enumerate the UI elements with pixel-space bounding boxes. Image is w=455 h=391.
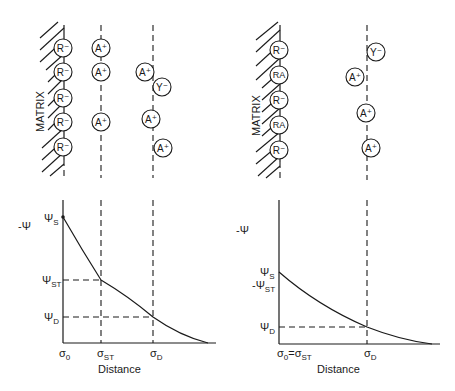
potential-curve (279, 272, 432, 344)
panel-top-left: MATRIX R⁻ R⁻ R⁻ R⁻ R⁻ A⁺ A⁺ A⁺ A⁺ Y⁻ A⁺ … (34, 22, 172, 178)
diffuse-ion: Y⁻ (153, 78, 171, 96)
x-axis-label: Distance (317, 363, 360, 375)
y-axis-label: -Ψ (18, 220, 31, 232)
matrix-label: MATRIX (34, 91, 46, 132)
chart-bottom-right: -Ψ ΨS -ΨST ΨD σ0=σST σD Distance (236, 200, 440, 375)
svg-text:RA: RA (273, 120, 286, 130)
diffuse-ion: A⁺ (362, 139, 380, 157)
diffuse-ion: A⁺ (357, 104, 375, 122)
svg-text:ΨST: ΨST (42, 274, 62, 289)
chart-bottom-left: -Ψ ΨS ΨST ΨD σ0 σST σD Distance (18, 200, 216, 375)
svg-text:σD: σD (364, 347, 377, 362)
svg-text:Y⁻: Y⁻ (370, 47, 382, 58)
surface-ion: R⁻ (270, 141, 288, 159)
diffuse-ion: A⁺ (154, 139, 172, 157)
surface-ion: RA (270, 116, 288, 134)
svg-text:R⁻: R⁻ (57, 117, 70, 128)
svg-text:σ0=σST: σ0=σST (277, 347, 312, 362)
svg-text:ΨD: ΨD (260, 321, 275, 336)
svg-text:A⁺: A⁺ (365, 143, 377, 154)
svg-text:R⁻: R⁻ (57, 93, 70, 104)
y-axis-label: -Ψ (236, 224, 249, 236)
surface-ion: R⁻ (270, 91, 288, 109)
svg-text:R⁻: R⁻ (273, 95, 286, 106)
surface-ion: R⁻ (54, 63, 72, 81)
svg-text:RA: RA (273, 70, 286, 80)
svg-text:ΨS: ΨS (44, 212, 59, 227)
svg-text:σ0: σ0 (59, 347, 71, 362)
x-axis-label: Distance (98, 363, 141, 375)
svg-text:A⁺: A⁺ (139, 67, 151, 78)
svg-text:ΨD: ΨD (44, 311, 59, 326)
double-layer-diagram: MATRIX R⁻ R⁻ R⁻ R⁻ R⁻ A⁺ A⁺ A⁺ A⁺ Y⁻ A⁺ … (0, 0, 455, 391)
surface-ion: R⁻ (270, 41, 288, 59)
svg-text:-ΨST: -ΨST (252, 279, 275, 294)
svg-text:R⁻: R⁻ (57, 67, 70, 78)
panel-top-right: MATRIX R⁻ RA R⁻ RA R⁻ Y⁻ A⁺ A⁺ A⁺ (250, 22, 385, 180)
svg-text:A⁺: A⁺ (95, 43, 107, 54)
svg-text:A⁺: A⁺ (95, 117, 107, 128)
svg-text:σD: σD (150, 347, 163, 362)
svg-text:σST: σST (97, 347, 114, 362)
surface-ion: R⁻ (54, 89, 72, 107)
svg-text:A⁺: A⁺ (360, 108, 372, 119)
svg-text:Y⁻: Y⁻ (156, 82, 168, 93)
surface-ion: R⁻ (54, 39, 72, 57)
stern-ion: A⁺ (92, 113, 110, 131)
diffuse-ion: A⁺ (142, 110, 160, 128)
svg-text:R⁻: R⁻ (273, 145, 286, 156)
surface-ion: R⁻ (54, 138, 72, 156)
svg-text:A⁺: A⁺ (95, 67, 107, 78)
svg-text:A⁺: A⁺ (145, 114, 157, 125)
svg-text:R⁻: R⁻ (57, 142, 70, 153)
stern-ion: A⁺ (92, 39, 110, 57)
diffuse-ion: Y⁻ (367, 43, 385, 61)
surface-ion: RA (270, 66, 288, 84)
diffuse-ion: A⁺ (136, 63, 154, 81)
stern-ion: A⁺ (92, 63, 110, 81)
svg-text:R⁻: R⁻ (57, 43, 70, 54)
diffuse-ion: A⁺ (346, 68, 364, 86)
svg-text:A⁺: A⁺ (157, 143, 169, 154)
surface-ion: R⁻ (54, 113, 72, 131)
matrix-label: MATRIX (250, 95, 262, 136)
svg-text:A⁺: A⁺ (349, 72, 361, 83)
svg-text:R⁻: R⁻ (273, 45, 286, 56)
